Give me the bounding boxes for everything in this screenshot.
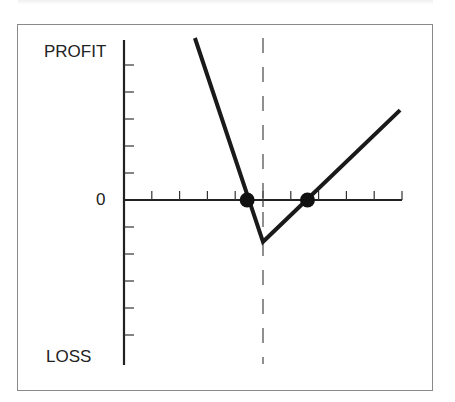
breakeven-2-marker xyxy=(300,193,315,208)
breakeven-1-marker xyxy=(240,193,255,208)
payoff-chart xyxy=(0,0,455,402)
payoff-line xyxy=(195,38,400,242)
